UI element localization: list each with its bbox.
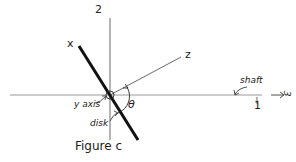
figure-canvas: 2 x z shaft 1 3 y axis θ disk Figure c: [0, 0, 296, 162]
axis-3-label: 3: [282, 91, 291, 97]
y-axis-label: y axis: [74, 100, 100, 109]
axis-z-label: z: [185, 49, 191, 60]
theta-label: θ: [128, 99, 135, 110]
axis-2-label: 2: [95, 4, 102, 15]
axis-x-label: x: [67, 38, 74, 49]
axis-1-label: 1: [254, 100, 261, 111]
figure-caption: Figure c: [75, 140, 122, 152]
axis-z-line: [110, 57, 181, 95]
shaft-label: shaft: [240, 76, 263, 85]
disk-label: disk: [90, 119, 108, 128]
